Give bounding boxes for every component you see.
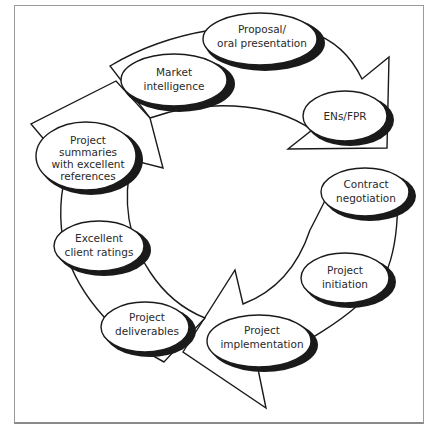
svg-text:Contract: Contract [343, 178, 388, 190]
svg-text:deliverables: deliverables [115, 325, 179, 337]
svg-text:implementation: implementation [220, 338, 303, 350]
svg-text:references: references [60, 170, 116, 182]
svg-text:Project: Project [327, 264, 363, 276]
svg-text:oral presentation: oral presentation [217, 37, 307, 49]
svg-text:negotiation: negotiation [336, 192, 396, 204]
svg-text:client ratings: client ratings [65, 246, 134, 258]
svg-text:with excellent: with excellent [51, 158, 124, 170]
svg-text:Project: Project [70, 134, 106, 146]
svg-text:initiation: initiation [322, 278, 368, 290]
svg-text:Excellent: Excellent [75, 232, 123, 244]
svg-text:Proposal/: Proposal/ [238, 23, 287, 35]
svg-text:Project: Project [129, 311, 165, 323]
svg-text:Project: Project [244, 324, 280, 336]
node-excellent-client-ratings: Excellent client ratings [54, 221, 151, 276]
svg-text:Market: Market [156, 66, 192, 78]
svg-text:summaries: summaries [59, 146, 117, 158]
svg-text:ENs/FPR: ENs/FPR [323, 110, 366, 122]
cycle-diagram: Market intelligence Proposal/ oral prese… [0, 0, 426, 431]
svg-text:intelligence: intelligence [144, 80, 205, 92]
